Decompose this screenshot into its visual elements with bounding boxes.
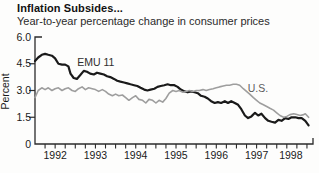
inflation-line-chart: 01.53.04.56.0199219931994199519961997199… <box>0 0 319 173</box>
us-series-label: U.S. <box>248 82 268 94</box>
y-tick-label: 4.5 <box>16 57 31 69</box>
inflation-chart-panel: Inflation Subsides... Year-to-year perce… <box>0 0 319 173</box>
y-tick-label: 1.5 <box>16 111 31 123</box>
y-axis-title: Percent <box>0 73 11 109</box>
y-tick-label: 3.0 <box>16 84 31 96</box>
y-tick-label: 0 <box>25 138 31 150</box>
x-tick-label: 1996 <box>205 149 229 161</box>
x-tick-label: 1994 <box>124 149 148 161</box>
x-tick-label: 1992 <box>43 149 67 161</box>
emu11-series-label: EMU 11 <box>77 56 114 68</box>
y-tick-label: 6.0 <box>16 31 31 43</box>
x-tick-label: 1997 <box>245 149 269 161</box>
x-tick-label: 1998 <box>279 149 303 161</box>
x-tick-label: 1993 <box>84 149 108 161</box>
x-tick-label: 1995 <box>164 149 188 161</box>
